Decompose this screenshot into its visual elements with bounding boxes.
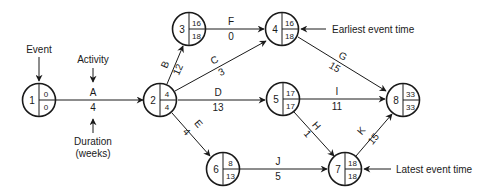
activity-e-duration: 4 (181, 126, 193, 138)
activity-b-duration: 12 (171, 62, 186, 77)
node-latest: 13 (226, 172, 235, 181)
activity-k-duration: 15 (366, 131, 382, 147)
duration-annotation-line2: (weeks) (75, 148, 110, 159)
activity-d-label: D (214, 87, 221, 98)
node-latest: 17 (286, 102, 295, 111)
duration-annotation-line1: Duration (74, 136, 112, 147)
node-latest: 33 (406, 103, 415, 112)
node-earliest: 0 (44, 90, 49, 99)
node-3: 3 16 18 (173, 13, 206, 46)
node-latest: 0 (44, 103, 49, 112)
node-5: 5 17 17 (267, 83, 300, 116)
node-latest: 18 (285, 32, 294, 41)
activity-c-duration: 3 (216, 66, 226, 79)
activity-j-duration: 5 (275, 171, 281, 182)
node-id: 1 (29, 95, 35, 106)
node-earliest: 18 (348, 159, 357, 168)
latest-annotation: Latest event time (396, 164, 473, 175)
earliest-annotation: Earliest event time (332, 24, 415, 35)
node-id: 6 (213, 164, 219, 175)
node-7: 7 18 18 (329, 153, 362, 186)
node-latest: 18 (192, 32, 201, 41)
node-6: 6 8 13 (207, 153, 240, 186)
node-latest: 4 (165, 103, 170, 112)
activity-h-arrow (294, 112, 334, 156)
activity-c-label: C (209, 53, 221, 66)
activity-a-label: A (90, 87, 97, 98)
node-earliest: 17 (286, 89, 295, 98)
node-earliest: 4 (165, 90, 170, 99)
activity-g-label: G (337, 49, 350, 63)
node-8: 8 33 33 (387, 84, 420, 117)
activity-annotation: Activity (77, 54, 109, 65)
node-earliest: 33 (406, 90, 415, 99)
node-1: 1 0 0 (23, 84, 56, 117)
network-diagram: A 4 B 12 C 3 D 13 E 4 F 0 G 15 I 11 H 1 … (0, 0, 489, 193)
activity-f-label: F (228, 16, 234, 27)
activity-e-arrow (172, 113, 210, 156)
node-earliest: 16 (285, 19, 294, 28)
node-id: 5 (273, 94, 279, 105)
event-annotation: Event (26, 44, 52, 55)
node-latest: 18 (348, 172, 357, 181)
node-id: 7 (335, 164, 341, 175)
node-id: 4 (272, 24, 278, 35)
activity-a-duration: 4 (90, 102, 96, 113)
node-id: 8 (393, 95, 399, 106)
node-earliest: 8 (228, 159, 233, 168)
node-id: 2 (150, 95, 156, 106)
activity-j-label: J (276, 156, 281, 167)
activity-k-label: K (355, 124, 368, 136)
node-2: 2 4 4 (144, 84, 177, 117)
activity-i-duration: 11 (332, 101, 343, 112)
activity-e-label: E (192, 117, 205, 130)
activity-f-duration: 0 (228, 31, 234, 42)
activity-d-duration: 13 (212, 102, 224, 113)
activity-b-label: B (158, 59, 171, 70)
node-earliest: 16 (192, 19, 201, 28)
node-4: 4 16 18 (266, 13, 299, 46)
activity-i-label: I (336, 86, 339, 97)
node-id: 3 (179, 24, 185, 35)
activity-h-duration: 1 (302, 128, 314, 140)
activity-g-duration: 15 (327, 59, 343, 74)
